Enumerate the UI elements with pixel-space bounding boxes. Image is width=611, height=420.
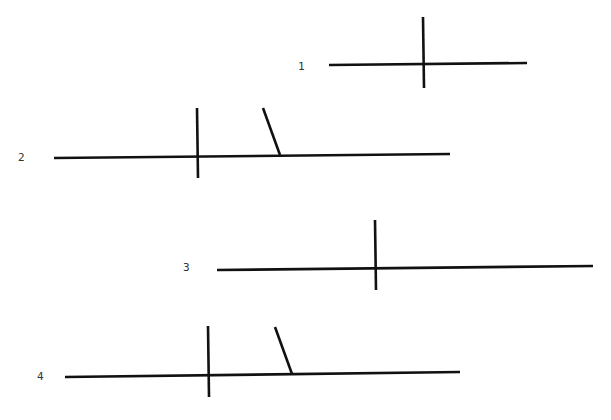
figure-label: 1: [298, 60, 305, 73]
figure-label: 4: [37, 370, 44, 383]
diagram-canvas: 1 2 3 4: [0, 0, 611, 420]
slanted-tick: [275, 327, 292, 374]
horizontal-line: [217, 266, 593, 270]
figure-label: 3: [183, 261, 190, 274]
vertical-tick: [423, 17, 424, 88]
figure-2: 2: [18, 108, 450, 178]
figure-4: 4: [37, 326, 460, 397]
vertical-tick: [375, 220, 376, 290]
figure-1: 1: [298, 17, 527, 88]
horizontal-line: [54, 154, 450, 158]
vertical-tick: [208, 326, 209, 397]
horizontal-line: [329, 63, 527, 65]
horizontal-line: [65, 372, 460, 377]
vertical-tick: [197, 108, 198, 178]
figure-3: 3: [183, 220, 593, 290]
slanted-tick: [263, 108, 280, 155]
figure-label: 2: [18, 151, 25, 164]
